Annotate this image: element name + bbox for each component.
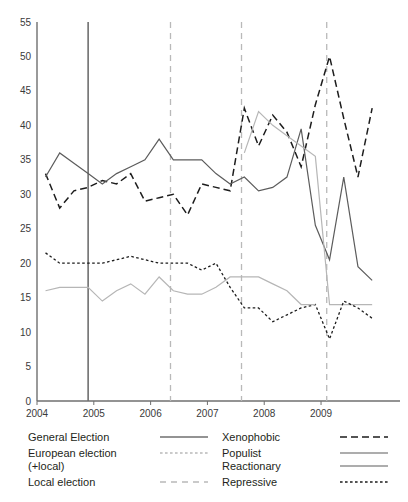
- series-line-reactionary-low: [46, 277, 316, 305]
- y-tick-15: 15: [20, 292, 32, 303]
- x-tick-2007: 2007: [196, 408, 219, 419]
- y-tick-20: 20: [20, 258, 32, 269]
- legend-label-xenophobic: Xenophobic: [222, 431, 281, 443]
- series-line-xenophobic: [46, 56, 373, 215]
- x-tick-2004: 2004: [26, 408, 49, 419]
- y-tick-55: 55: [20, 17, 32, 28]
- x-tick-2005: 2005: [83, 408, 106, 419]
- legend-label-repressive: Repressive: [222, 476, 277, 488]
- legend-label-general-election: General Election: [28, 431, 109, 443]
- legend-label-european-election: European election: [28, 447, 117, 459]
- x-axis-tick-labels: 200420052006200720082009: [26, 408, 333, 419]
- y-tick-35: 35: [20, 154, 32, 165]
- y-tick-45: 45: [20, 85, 32, 96]
- legend-label-european-election-sub: (+local): [28, 460, 64, 472]
- legend-label-reactionary: Reactionary: [222, 460, 281, 472]
- series-line-reactionary: [244, 112, 372, 305]
- series-lines: [46, 56, 373, 339]
- y-tick-50: 50: [20, 51, 32, 62]
- series-line-repressive: [46, 253, 373, 339]
- line-chart: 0510152025303540455055 20042005200620072…: [0, 0, 408, 502]
- chart-container: 0510152025303540455055 20042005200620072…: [0, 0, 408, 502]
- x-tick-2006: 2006: [139, 408, 162, 419]
- axis-lines: [37, 22, 400, 401]
- x-tick-2008: 2008: [253, 408, 276, 419]
- legend-label-local-election: Local election: [28, 476, 95, 488]
- legend: General ElectionEuropean election(+local…: [28, 431, 388, 488]
- y-tick-25: 25: [20, 223, 32, 234]
- y-tick-0: 0: [25, 396, 31, 407]
- legend-label-populist: Populist: [222, 447, 261, 459]
- x-tick-2009: 2009: [310, 408, 333, 419]
- y-tick-5: 5: [25, 361, 31, 372]
- y-tick-30: 30: [20, 189, 32, 200]
- y-tick-10: 10: [20, 327, 32, 338]
- election-event-lines: [88, 22, 327, 401]
- series-line-populist: [46, 129, 373, 281]
- y-tick-40: 40: [20, 120, 32, 131]
- y-axis-tick-labels: 0510152025303540455055: [20, 17, 32, 407]
